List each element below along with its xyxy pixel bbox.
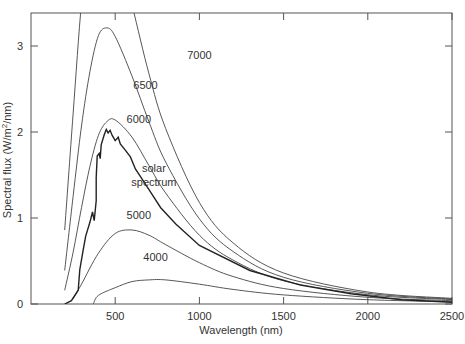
y-tick-label: 2 xyxy=(17,126,23,138)
y-tick-label: 1 xyxy=(17,212,23,224)
curve-4000 xyxy=(93,280,452,304)
chart: 50010001500200025000123 700065006000sola… xyxy=(0,0,465,344)
curve-5000 xyxy=(73,230,452,301)
curve-labels: 700065006000solarspectrum50004000 xyxy=(127,49,212,263)
x-tick-label: 2500 xyxy=(440,310,464,322)
x-tick-label: 2000 xyxy=(356,310,380,322)
x-tick-label: 500 xyxy=(106,310,124,322)
y-tick-label: 3 xyxy=(17,40,23,52)
curve-7000 xyxy=(65,0,452,298)
curve-label: 6000 xyxy=(127,113,151,125)
x-tick-label: 1500 xyxy=(271,310,295,322)
x-axis-title: Wavelength (nm) xyxy=(199,324,282,336)
curves xyxy=(65,0,452,304)
x-tick-label: 1000 xyxy=(187,310,211,322)
curve-label: 4000 xyxy=(143,251,167,263)
y-axis-title: Spectral flux (W/m2/nm) xyxy=(0,102,13,218)
curve-label: 7000 xyxy=(187,49,211,61)
curve-solar-spectrum xyxy=(65,129,452,304)
curve-label: 5000 xyxy=(127,209,151,221)
curve-label: 6500 xyxy=(133,79,157,91)
y-tick-label: 0 xyxy=(17,298,23,310)
curve-label: solar xyxy=(142,162,166,174)
curve-label: spectrum xyxy=(131,176,176,188)
curve-6500 xyxy=(65,28,452,299)
